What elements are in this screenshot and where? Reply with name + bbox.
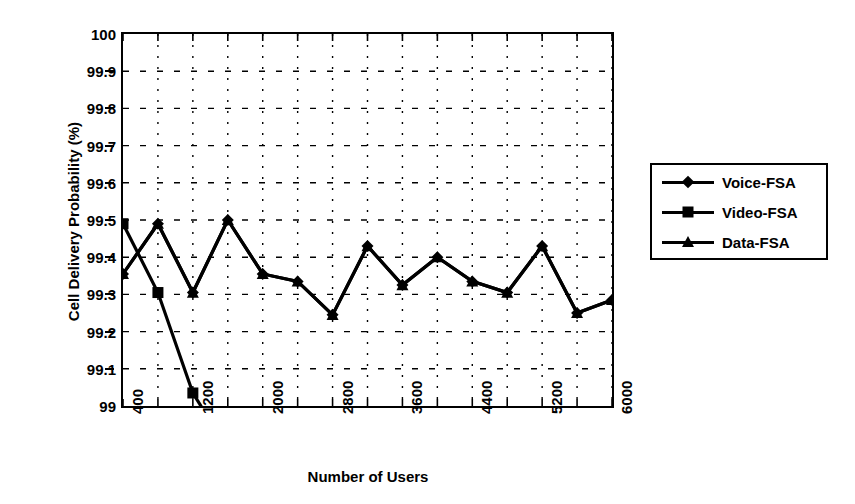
legend-marker-triangle-icon [660, 233, 716, 251]
y-axis-tick-label: 99.7 [16, 138, 116, 153]
y-axis-tick-label: 99.9 [16, 64, 116, 79]
y-axis-tick-label: 99.3 [16, 287, 116, 302]
marker-square [187, 387, 198, 398]
y-axis-tick [105, 182, 114, 184]
y-axis-tick-labels: 9999.199.299.399.499.599.699.799.899.910… [8, 0, 116, 504]
x-axis-tick-label: 400 [130, 389, 145, 414]
legend-item-video-fsa[interactable]: Video-FSA [660, 197, 798, 227]
legend-label: Voice-FSA [722, 174, 796, 191]
legend-item-data-fsa[interactable]: Data-FSA [660, 227, 790, 257]
x-axis-tick-label: 5200 [549, 381, 564, 414]
legend-label: Data-FSA [722, 234, 790, 251]
marker-square [123, 218, 129, 229]
y-axis-tick [105, 145, 114, 147]
x-axis-tick-label: 6000 [619, 381, 634, 414]
legend-marker-diamond-icon [660, 173, 716, 191]
plot-area [121, 32, 614, 408]
x-axis-tick-label: 4400 [479, 381, 494, 414]
y-axis-tick [105, 368, 114, 370]
legend-marker-square-icon [660, 203, 716, 221]
legend: Voice-FSA Video-FSA Data-FSA [650, 163, 828, 260]
series-line [123, 224, 193, 393]
y-axis-tick [105, 331, 114, 333]
y-axis-tick-label: 99.4 [16, 250, 116, 265]
plot-svg [123, 34, 612, 406]
x-axis-tick-label: 2000 [270, 381, 285, 414]
x-axis-title: Number of Users [121, 468, 615, 485]
y-axis-tick [105, 70, 114, 72]
y-axis-tick [105, 256, 114, 258]
x-axis-tick-label: 1200 [200, 381, 215, 414]
y-axis-tick-label: 100 [16, 27, 116, 42]
marker-square [152, 287, 163, 298]
y-axis-tick-label: 99.2 [16, 324, 116, 339]
chart-figure: Cell Delivery Probability (%) 9999.199.2… [0, 0, 855, 504]
x-axis-tick-label: 2800 [340, 381, 355, 414]
y-axis-tick-label: 99.6 [16, 175, 116, 190]
y-axis-tick-label: 99.1 [16, 361, 116, 376]
y-axis-tick [105, 293, 114, 295]
legend-item-voice-fsa[interactable]: Voice-FSA [660, 167, 796, 197]
y-axis-tick-label: 99.5 [16, 213, 116, 228]
y-axis-tick [105, 107, 114, 109]
series-line [123, 220, 612, 315]
y-axis-tick-label: 99 [16, 399, 116, 414]
y-axis-tick [105, 219, 114, 221]
y-axis-tick-label: 99.8 [16, 101, 116, 116]
x-axis-tick-label: 3600 [409, 381, 424, 414]
series-line [123, 220, 612, 315]
legend-label: Video-FSA [722, 204, 798, 221]
